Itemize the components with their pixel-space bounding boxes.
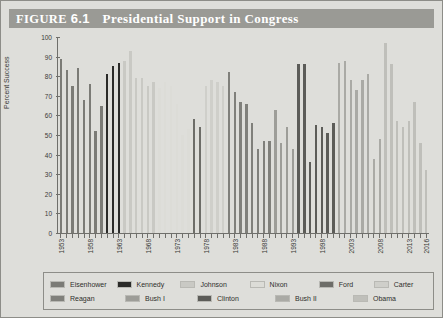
legend-swatch bbox=[275, 295, 290, 302]
y-axis-label: Percent Success bbox=[3, 56, 10, 109]
y-axis-tick-label: 10 bbox=[30, 210, 52, 217]
legend-item[interactable]: Ford bbox=[319, 281, 374, 288]
bar bbox=[60, 59, 62, 233]
x-axis-tick-mark bbox=[89, 234, 90, 238]
x-axis-tick-mark bbox=[246, 234, 247, 238]
y-axis-tick-label: 40 bbox=[30, 151, 52, 158]
x-axis-tick-mark bbox=[101, 234, 102, 238]
x-axis-tick-mark bbox=[321, 234, 322, 238]
x-axis-tick-mark bbox=[234, 234, 235, 238]
y-axis: 0102030405060708090100 bbox=[29, 37, 57, 233]
bar bbox=[187, 129, 189, 233]
x-axis-tick-mark bbox=[373, 234, 374, 238]
legend-item[interactable]: Bush I bbox=[125, 295, 197, 302]
x-axis-tick-mark bbox=[159, 234, 160, 238]
x-axis-tick-mark bbox=[194, 234, 195, 238]
x-axis-tick-label: 2016 bbox=[423, 239, 430, 253]
bar bbox=[292, 149, 294, 233]
legend-item[interactable]: Obama bbox=[353, 295, 415, 302]
x-axis-tick-mark bbox=[298, 234, 299, 238]
x-axis-tick-mark bbox=[188, 234, 189, 238]
x-axis-tick-mark bbox=[205, 234, 206, 238]
legend-item[interactable]: Reagan bbox=[50, 295, 125, 302]
x-axis-tick-mark bbox=[66, 234, 67, 238]
bar bbox=[77, 68, 79, 233]
legend-item[interactable]: Nixon bbox=[250, 281, 319, 288]
legend-item[interactable]: Kennedy bbox=[117, 281, 181, 288]
x-axis-tick-mark bbox=[350, 234, 351, 238]
x-axis-tick-mark bbox=[426, 234, 427, 238]
x-axis-tick-mark bbox=[176, 234, 177, 238]
bar bbox=[286, 127, 288, 233]
legend-item[interactable]: Clinton bbox=[197, 295, 275, 302]
bar bbox=[106, 74, 108, 233]
x-axis-tick-mark bbox=[304, 234, 305, 238]
x-axis-tick-mark bbox=[107, 234, 108, 238]
x-axis-tick-mark bbox=[142, 234, 143, 238]
bar bbox=[135, 78, 137, 233]
legend-row-2: ReaganBush IClintonBush IIObama bbox=[50, 291, 427, 305]
legend-item[interactable]: Johnson bbox=[180, 281, 249, 288]
x-axis-tick-mark bbox=[315, 234, 316, 238]
bar bbox=[373, 159, 375, 234]
y-axis-tick-label: 0 bbox=[30, 230, 52, 237]
x-axis-tick-mark bbox=[339, 234, 340, 238]
bar bbox=[413, 102, 415, 233]
y-axis-tick-label: 30 bbox=[30, 171, 52, 178]
bar bbox=[89, 84, 91, 233]
bar bbox=[112, 66, 114, 233]
x-axis-tick-mark bbox=[124, 234, 125, 238]
bar bbox=[379, 139, 381, 233]
legend-swatch bbox=[319, 281, 334, 288]
legend-label: Reagan bbox=[70, 295, 95, 302]
bar-slot bbox=[423, 37, 429, 233]
bar bbox=[315, 125, 317, 233]
bar bbox=[390, 64, 392, 233]
bar bbox=[66, 70, 68, 233]
legend-label: Bush II bbox=[295, 295, 317, 302]
chart-legend: EisenhowerKennedyJohnsonNixonFordCarter … bbox=[43, 272, 434, 310]
figure-number: 6.1 bbox=[71, 11, 90, 26]
y-axis-tick-label: 100 bbox=[30, 34, 52, 41]
bar bbox=[239, 102, 241, 233]
bar bbox=[344, 61, 346, 234]
bar bbox=[158, 88, 160, 233]
figure-label: FIGURE bbox=[16, 12, 67, 26]
bar bbox=[170, 86, 172, 233]
legend-swatch bbox=[353, 295, 368, 302]
bar bbox=[83, 100, 85, 233]
legend-label: Obama bbox=[373, 295, 396, 302]
bar bbox=[408, 121, 410, 233]
bar bbox=[176, 104, 178, 233]
bar bbox=[94, 131, 96, 233]
legend-swatch bbox=[50, 295, 65, 302]
x-axis-tick-mark bbox=[286, 234, 287, 238]
legend-swatch bbox=[117, 281, 132, 288]
bar bbox=[384, 43, 386, 233]
legend-label: Clinton bbox=[217, 295, 239, 302]
bar bbox=[205, 86, 207, 233]
x-axis-tick-mark bbox=[414, 234, 415, 238]
x-axis-tick-mark bbox=[385, 234, 386, 238]
bar bbox=[152, 82, 154, 233]
x-axis-tick-mark bbox=[217, 234, 218, 238]
x-axis-tick-mark bbox=[379, 234, 380, 238]
legend-swatch bbox=[180, 281, 195, 288]
legend-item[interactable]: Carter bbox=[374, 281, 427, 288]
legend-item[interactable]: Eisenhower bbox=[50, 281, 117, 288]
x-axis-tick-mark bbox=[165, 234, 166, 238]
x-axis-tick-mark bbox=[356, 234, 357, 238]
bar bbox=[332, 123, 334, 233]
bar bbox=[222, 86, 224, 233]
x-axis-tick-mark bbox=[84, 234, 85, 238]
bar bbox=[326, 133, 328, 233]
legend-label: Kennedy bbox=[137, 281, 165, 288]
x-axis-tick-mark bbox=[391, 234, 392, 238]
x-axis-tick-mark bbox=[397, 234, 398, 238]
x-axis-tick-mark bbox=[240, 234, 241, 238]
bar bbox=[228, 72, 230, 233]
legend-swatch bbox=[374, 281, 389, 288]
bar bbox=[425, 170, 427, 233]
legend-item[interactable]: Bush II bbox=[275, 295, 353, 302]
x-axis-tick-mark bbox=[327, 234, 328, 238]
